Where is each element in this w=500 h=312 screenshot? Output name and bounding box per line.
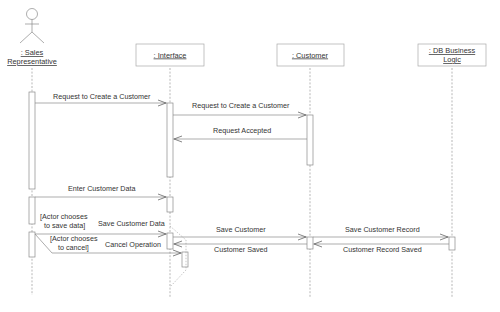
object-name: : Interface	[154, 51, 187, 60]
svg-text:Save Customer Data: Save Customer Data	[98, 219, 165, 228]
svg-text:Save Customer: Save Customer	[216, 225, 266, 234]
sequence-diagram: : Sales Representative : Interface : Cus…	[0, 0, 500, 312]
guard-cancel-line2: to cancel]	[58, 243, 89, 252]
svg-text:Enter Customer Data: Enter Customer Data	[68, 184, 136, 193]
object-db-business-logic: : DB Business Logic	[418, 44, 486, 66]
activation-interface-cancel	[182, 252, 188, 267]
message-customer-record-saved: Customer Record Saved	[313, 241, 449, 254]
activation-sales-3	[29, 232, 35, 257]
svg-text:Cancel Operation: Cancel Operation	[105, 240, 161, 249]
message-request-create-customer-1: Request to Create a Customer	[35, 92, 167, 106]
activation-sales-1	[29, 92, 35, 189]
message-save-customer-record: Save Customer Record	[313, 225, 449, 240]
message-request-accepted: Request Accepted	[173, 126, 307, 142]
svg-text:Save Customer Record: Save Customer Record	[345, 225, 420, 234]
object-name-line2: Logic	[443, 55, 461, 64]
message-request-create-customer-2: Request to Create a Customer	[173, 101, 307, 118]
actor-name-line1: : Sales	[21, 48, 44, 57]
actor-name-line2: Representative	[7, 57, 57, 66]
activation-customer-1	[307, 115, 313, 165]
svg-text:Request Accepted: Request Accepted	[213, 126, 271, 135]
message-enter-customer-data: Enter Customer Data	[35, 184, 167, 200]
message-customer-saved: Customer Saved	[173, 241, 307, 254]
guard-cancel-line1: [Actor chooses	[50, 234, 98, 243]
object-name-line1: : DB Business	[429, 46, 476, 55]
activation-customer-2	[307, 237, 313, 249]
svg-text:Customer Saved: Customer Saved	[214, 245, 268, 254]
activation-interface-3	[167, 233, 173, 249]
guard-save-line2: to save data]	[44, 221, 85, 230]
object-name: : Customer	[292, 51, 329, 60]
activation-interface-2	[167, 197, 173, 212]
svg-text:Customer Record Saved: Customer Record Saved	[343, 245, 422, 254]
svg-text:Request to Create a Customer: Request to Create a Customer	[53, 92, 151, 101]
activation-sales-2	[29, 197, 35, 224]
message-save-customer: Save Customer	[173, 225, 307, 240]
guard-save-line1: [Actor chooses	[40, 212, 88, 221]
stick-figure-icon	[20, 9, 44, 44]
actor-sales-representative: : Sales Representative	[7, 9, 57, 67]
activation-db-1	[449, 237, 455, 250]
activation-interface-1	[167, 103, 173, 177]
object-customer: : Customer	[277, 44, 344, 66]
svg-text:Request to Create a Customer: Request to Create a Customer	[192, 101, 290, 110]
object-interface: : Interface	[136, 44, 204, 66]
